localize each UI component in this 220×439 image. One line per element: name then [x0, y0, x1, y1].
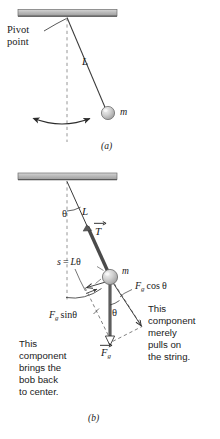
pivot-leader-line [44, 19, 66, 31]
fg-cos-theta-label: Fgcos θ [135, 281, 167, 293]
pivot-point-label: Pivot point [7, 24, 29, 47]
pendulum-bob-b [102, 269, 117, 284]
tension-label-text: T [95, 225, 101, 237]
fg-cos-leader [120, 290, 132, 298]
theta-label-pivot: θ [62, 208, 67, 219]
pivot-point-label-line2: point [7, 36, 29, 48]
mass-label-b: m [122, 267, 129, 277]
ceiling-bar-a [18, 10, 117, 17]
swing-arc-arrow [34, 119, 90, 125]
right-note-line2: component [148, 315, 195, 327]
weight-label: Fg [101, 347, 111, 360]
pendulum-figure: Pivot point L m (a) θ L T s=Lθ m Fgcos θ… [0, 0, 220, 439]
pendulum-bob-a [101, 106, 114, 119]
string-length-label-a: L [82, 56, 88, 68]
pivot-point-label-line1: Pivot [7, 24, 29, 36]
right-note-line5: the string. [148, 351, 195, 363]
theta-label-inner: θ [112, 307, 117, 318]
arc-length-theta: θ [76, 256, 81, 267]
left-annotation-note: This component brings the bob back to ce… [19, 338, 66, 398]
right-annotation-note: This component merely pulls on the strin… [148, 303, 195, 363]
string-length-label-b: L [82, 206, 88, 218]
left-note-line1: This [19, 338, 66, 350]
right-note-line1: This [148, 303, 195, 315]
mass-label-a: m [120, 107, 127, 118]
fg-cos-subscript: g [141, 285, 145, 293]
left-note-line4: bob back [19, 374, 66, 386]
right-note-line3: merely [148, 327, 195, 339]
fg-sin-leader [94, 309, 100, 315]
left-note-line5: to center. [19, 386, 66, 398]
ceiling-bar-b [18, 173, 117, 180]
arc-length-equals: = [63, 256, 69, 267]
fg-cos-rest: cos θ [147, 280, 167, 291]
fg-sin-rest: sinθ [61, 309, 77, 320]
weight-label-subscript: g [107, 352, 111, 360]
panel-caption-a: (a) [101, 142, 112, 152]
arc-length-label: s=Lθ [57, 257, 81, 268]
panel-caption-b: (b) [88, 414, 99, 424]
arc-length-s: s [57, 256, 61, 267]
panel-a-art [18, 10, 117, 143]
arc-length-leader [75, 269, 86, 291]
tension-label: T [95, 226, 101, 238]
fg-sin-subscript: g [55, 314, 59, 322]
fg-sin-theta-label: Fgsinθ [49, 310, 77, 322]
left-note-line2: component [19, 350, 66, 362]
left-note-line3: brings the [19, 362, 66, 374]
right-note-line4: pulls on [148, 339, 195, 351]
